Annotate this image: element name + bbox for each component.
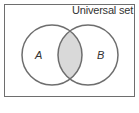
venn-diagram: A B <box>0 0 139 113</box>
set-a-label: A <box>34 49 42 61</box>
set-b-label: B <box>97 49 104 61</box>
